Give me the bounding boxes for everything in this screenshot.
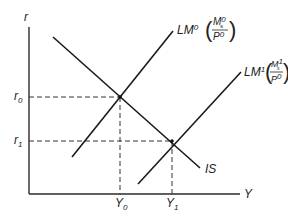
svg-text:P0: P0 xyxy=(271,72,282,84)
r-axis-label: r xyxy=(24,10,29,24)
svg-text:Y1: Y1 xyxy=(166,196,178,212)
svg-text:r1: r1 xyxy=(14,133,22,149)
svg-text:(: ( xyxy=(205,17,213,42)
equilibrium-point-1 xyxy=(170,139,174,143)
lm1-label: LM1 ( M1 s P0 ) xyxy=(244,57,288,84)
svg-text:): ) xyxy=(229,17,236,42)
svg-text:P0: P0 xyxy=(213,30,225,42)
svg-text:s: s xyxy=(220,23,223,29)
svg-text:r0: r0 xyxy=(14,89,23,105)
svg-text:LM0: LM0 xyxy=(177,23,199,37)
is-lm-diagram: r Y r0 r1 Y0 Y1 IS LM0 ( M0 s P0 ) LM1 ( xyxy=(0,0,288,219)
is-curve xyxy=(53,37,200,168)
lm0-curve xyxy=(72,31,173,157)
svg-text:Y0: Y0 xyxy=(115,196,128,212)
svg-text:): ) xyxy=(283,59,288,84)
equilibrium-point-0 xyxy=(118,95,122,99)
r1-label: r1 xyxy=(14,133,22,149)
r0-label: r0 xyxy=(14,89,23,105)
is-label: IS xyxy=(205,162,216,176)
lm0-label: LM0 ( M0 s P0 ) xyxy=(177,15,236,42)
y0-label: Y0 xyxy=(115,196,128,212)
y1-label: Y1 xyxy=(166,196,178,212)
svg-text:LM1: LM1 xyxy=(244,65,265,79)
y-axis-label: Y xyxy=(244,187,253,201)
lm1-curve xyxy=(138,72,241,184)
